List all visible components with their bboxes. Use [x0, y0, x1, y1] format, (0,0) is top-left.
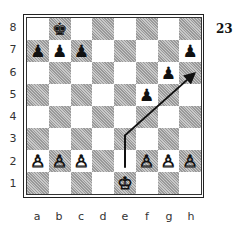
- file-label-g: g: [158, 210, 180, 223]
- square-g6: ♟: [158, 62, 180, 84]
- white-pawn-icon: ♙: [30, 153, 45, 170]
- black-pawn-icon: ♟: [161, 65, 176, 82]
- square-d2: [92, 150, 114, 172]
- square-c6: [71, 62, 93, 84]
- file-label-d: d: [92, 210, 114, 223]
- square-e8: [114, 18, 136, 40]
- white-pawn-icon: ♙: [161, 153, 176, 170]
- square-f8: [136, 18, 158, 40]
- square-c2: ♙: [71, 150, 93, 172]
- square-g1: [158, 172, 180, 194]
- file-label-e: e: [114, 210, 136, 223]
- white-king-icon: ♔: [117, 175, 132, 192]
- square-d3: [92, 128, 114, 150]
- file-label-b: b: [48, 210, 70, 223]
- rank-label-5: 5: [7, 88, 19, 101]
- square-d4: [92, 106, 114, 128]
- rank-label-6: 6: [7, 66, 19, 79]
- square-g8: [158, 18, 180, 40]
- square-f7: [136, 40, 158, 62]
- rank-label-3: 3: [7, 132, 19, 145]
- square-b8: ♚: [49, 18, 71, 40]
- square-c3: [71, 128, 93, 150]
- square-e2: [114, 150, 136, 172]
- square-h7: ♟: [179, 40, 201, 62]
- square-g7: [158, 40, 180, 62]
- square-h6: [179, 62, 201, 84]
- square-f3: [136, 128, 158, 150]
- square-e5: [114, 84, 136, 106]
- square-a2: ♙: [27, 150, 49, 172]
- square-e7: [114, 40, 136, 62]
- black-pawn-icon: ♟: [30, 43, 45, 60]
- rank-label-4: 4: [7, 110, 19, 123]
- square-b5: [49, 84, 71, 106]
- black-pawn-icon: ♟: [74, 43, 89, 60]
- file-label-f: f: [136, 210, 158, 223]
- square-d7: [92, 40, 114, 62]
- file-label-c: c: [70, 210, 92, 223]
- white-pawn-icon: ♙: [52, 153, 67, 170]
- rank-label-1: 1: [7, 177, 19, 190]
- file-label-a: a: [26, 210, 48, 223]
- square-d5: [92, 84, 114, 106]
- square-f5: ♟: [136, 84, 158, 106]
- black-pawn-icon: ♟: [52, 43, 67, 60]
- rank-label-7: 7: [7, 43, 19, 56]
- square-b3: [49, 128, 71, 150]
- square-d6: [92, 62, 114, 84]
- diagram-number: 23: [216, 22, 233, 36]
- square-a1: [27, 172, 49, 194]
- chess-board: ♚♟♟♟♟♟♟♙♙♙♙♙♙♔: [26, 17, 202, 195]
- white-pawn-icon: ♙: [74, 153, 89, 170]
- square-a4: [27, 106, 49, 128]
- square-g3: [158, 128, 180, 150]
- square-a3: [27, 128, 49, 150]
- square-h2: ♙: [179, 150, 201, 172]
- square-c5: [71, 84, 93, 106]
- square-e4: [114, 106, 136, 128]
- square-b2: ♙: [49, 150, 71, 172]
- black-king-icon: ♚: [52, 21, 67, 38]
- square-g4: [158, 106, 180, 128]
- square-a8: [27, 18, 49, 40]
- square-d8: [92, 18, 114, 40]
- square-h5: [179, 84, 201, 106]
- square-h1: [179, 172, 201, 194]
- square-f2: ♙: [136, 150, 158, 172]
- rank-label-8: 8: [7, 21, 19, 34]
- square-c1: [71, 172, 93, 194]
- square-g2: ♙: [158, 150, 180, 172]
- square-f6: [136, 62, 158, 84]
- rank-label-2: 2: [7, 155, 19, 168]
- white-pawn-icon: ♙: [139, 153, 154, 170]
- square-h8: [179, 18, 201, 40]
- black-pawn-icon: ♟: [183, 43, 198, 60]
- square-h3: [179, 128, 201, 150]
- square-e3: [114, 128, 136, 150]
- square-h4: [179, 106, 201, 128]
- square-f1: [136, 172, 158, 194]
- square-b1: [49, 172, 71, 194]
- square-c8: [71, 18, 93, 40]
- square-b7: ♟: [49, 40, 71, 62]
- square-b4: [49, 106, 71, 128]
- square-a6: [27, 62, 49, 84]
- square-c7: ♟: [71, 40, 93, 62]
- file-label-h: h: [180, 210, 202, 223]
- square-a5: [27, 84, 49, 106]
- square-g5: [158, 84, 180, 106]
- square-b6: [49, 62, 71, 84]
- black-pawn-icon: ♟: [139, 87, 154, 104]
- square-e1: ♔: [114, 172, 136, 194]
- square-e6: [114, 62, 136, 84]
- square-c4: [71, 106, 93, 128]
- square-a7: ♟: [27, 40, 49, 62]
- white-pawn-icon: ♙: [183, 153, 198, 170]
- square-f4: [136, 106, 158, 128]
- square-d1: [92, 172, 114, 194]
